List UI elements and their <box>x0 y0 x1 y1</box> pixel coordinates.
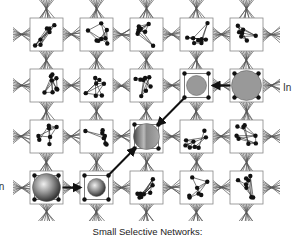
fiber-bundle <box>190 153 204 171</box>
network-box-r0-c4 <box>230 18 263 51</box>
fiber-bundle <box>13 78 30 92</box>
network-box-r2-c4 <box>230 120 263 153</box>
network-box-r3-c3 <box>180 171 213 204</box>
neuron-node <box>147 75 151 79</box>
neuron-node <box>100 128 104 132</box>
neuron-node <box>150 183 154 187</box>
fiber-bundle <box>188 51 203 69</box>
neuron-node <box>254 34 258 38</box>
fiber-bundle <box>89 153 103 171</box>
neuron-node <box>83 129 87 133</box>
neuron-node <box>195 186 199 190</box>
neuron-node <box>245 38 249 42</box>
neuron-node <box>82 173 86 177</box>
neuron-node <box>47 30 51 34</box>
fiber-bundle <box>163 179 180 194</box>
neuron-node <box>248 174 252 178</box>
fiber-bundle <box>139 204 154 221</box>
network-box-r2-c0 <box>30 120 63 153</box>
fiber-bundle <box>113 181 130 195</box>
neuron-node <box>204 37 208 41</box>
fiber-bundle <box>89 204 105 221</box>
fiber-bundle <box>240 153 254 171</box>
neuron-node <box>38 43 42 47</box>
fiber-bundle <box>263 180 280 194</box>
neuron-node <box>235 124 239 128</box>
neuron-node <box>236 178 240 182</box>
neuron-node <box>206 71 210 75</box>
neuron-node <box>50 90 54 94</box>
neuron-node <box>239 34 243 38</box>
neuron-node <box>133 77 137 81</box>
fiber-bundle <box>38 204 54 221</box>
selective-network-diagram <box>0 0 295 239</box>
neuron-node <box>103 141 107 145</box>
neuron-node <box>254 141 258 145</box>
neuron-node <box>47 126 51 130</box>
neuron-node <box>188 145 192 149</box>
neuron-node <box>86 28 90 32</box>
neuron-node <box>182 71 186 75</box>
neuron-node <box>191 36 195 40</box>
neuron-node <box>204 135 208 139</box>
network-box-r0-c0 <box>30 18 63 51</box>
fiber-bundle <box>89 51 104 69</box>
neuron-node <box>97 78 101 82</box>
neuron-node <box>48 135 52 139</box>
fiber-bundle <box>90 0 105 18</box>
neuron-node <box>187 195 191 199</box>
fiber-bundle <box>189 204 204 221</box>
neuron-node <box>56 173 60 177</box>
neuron-node <box>94 81 98 85</box>
network-box-r2-c1 <box>80 120 113 153</box>
neuron-node <box>237 30 241 34</box>
fiber-bundle <box>13 181 30 195</box>
neuron-node <box>42 90 46 94</box>
neuron-node <box>192 41 196 45</box>
fiber-bundle <box>63 77 80 92</box>
neuron-node <box>56 197 60 201</box>
neuron-node <box>93 76 97 80</box>
fiber-bundle <box>138 51 153 69</box>
fiber-bundle <box>40 51 54 69</box>
network-box-r0-c3 <box>180 18 213 51</box>
neuron-node <box>143 29 147 33</box>
active-network-sphere <box>232 71 262 101</box>
fiber-bundle <box>190 102 204 120</box>
input-label-left: In <box>0 181 4 192</box>
network-box-r1-c0 <box>30 69 63 102</box>
neuron-node <box>105 41 109 45</box>
diagram-caption: Small Selective Networks: <box>0 226 295 237</box>
fiber-bundle <box>13 28 30 42</box>
neuron-node <box>185 35 189 39</box>
neuron-node <box>146 22 150 26</box>
neuron-node <box>151 44 155 48</box>
neuron-node <box>37 138 41 142</box>
neuron-node <box>241 28 245 32</box>
fiber-bundle <box>239 204 253 221</box>
neuron-node <box>196 146 200 150</box>
neuron-node <box>236 137 240 141</box>
fiber-bundle <box>139 102 153 120</box>
neuron-node <box>32 173 36 177</box>
neuron-node <box>100 93 104 97</box>
fiber-bundle <box>13 130 30 144</box>
fiber-bundle <box>189 0 205 18</box>
fiber-bundle <box>113 28 130 42</box>
active-network-sphere <box>187 76 207 96</box>
neuron-node <box>156 146 160 150</box>
fiber-bundle <box>213 179 230 195</box>
neuron-node <box>139 94 143 98</box>
neuron-node <box>132 122 136 126</box>
fiber-bundle <box>113 129 130 143</box>
neuron-node <box>84 91 88 95</box>
neuron-node <box>106 197 110 201</box>
neuron-node <box>32 197 36 201</box>
fiber-bundle <box>263 27 280 43</box>
neuron-node <box>183 143 187 147</box>
network-box-r1-c2 <box>130 69 163 102</box>
neuron-node <box>94 93 98 97</box>
neuron-node <box>137 27 141 31</box>
fiber-bundle <box>90 102 104 120</box>
neuron-node <box>253 133 257 137</box>
